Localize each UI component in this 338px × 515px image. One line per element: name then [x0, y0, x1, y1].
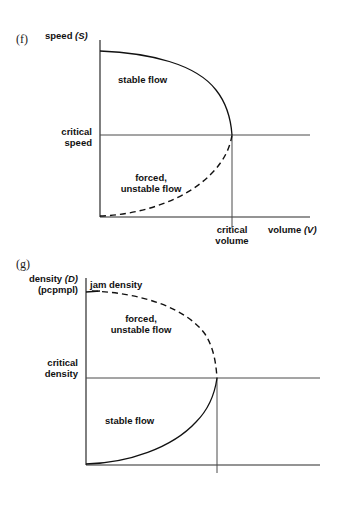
- figure-f-speed-volume: (f) speed (S) critical speed stable flow…: [0, 0, 338, 255]
- stable-flow-curve-g: [86, 378, 217, 464]
- figure-f-plot: [0, 0, 338, 255]
- figure-g-density-volume: (g) density (D) (pcpmpl) jam density cri…: [0, 255, 338, 515]
- stable-flow-curve-f: [100, 51, 232, 135]
- figure-g-plot: [0, 255, 338, 515]
- forced-unstable-flow-curve-f: [100, 135, 232, 216]
- forced-unstable-flow-curve-g: [92, 291, 217, 378]
